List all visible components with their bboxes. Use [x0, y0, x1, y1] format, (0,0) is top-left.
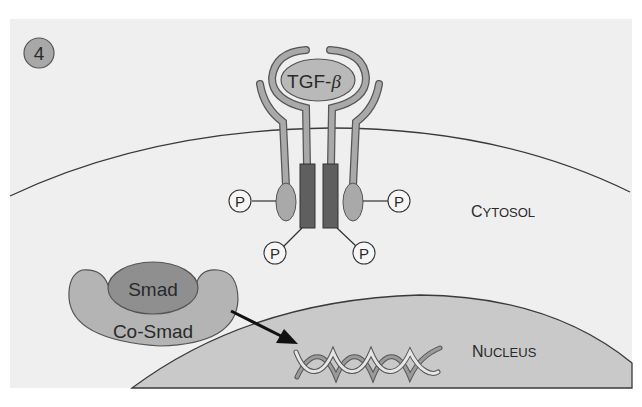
phosphate-bottom-right: P [353, 242, 375, 264]
receptor-type1-left-domain [276, 183, 296, 221]
svg-text:P: P [394, 193, 404, 210]
receptor-kinase-left [300, 164, 315, 228]
phosphate-right: P [388, 190, 410, 212]
svg-text:P: P [359, 245, 369, 262]
svg-text:P: P [270, 245, 280, 262]
tgf-beta-ligand: TGF-β [281, 59, 355, 101]
cytosol-label: CYTOSOL [471, 203, 535, 220]
phosphate-left: P [229, 190, 251, 212]
step-badge: 4 [24, 38, 54, 68]
svg-text:Smad: Smad [128, 279, 178, 300]
receptor-kinase-right [323, 164, 338, 228]
nucleus-label: NUCLEUS [472, 343, 537, 360]
receptor-type1-right-domain [343, 183, 363, 221]
tgf-beta-signaling-diagram: 4 TGF-β P [0, 0, 642, 407]
svg-text:P: P [235, 193, 245, 210]
svg-text:TGF-β: TGF-β [287, 71, 341, 92]
svg-text:4: 4 [34, 43, 45, 64]
phosphate-bottom-left: P [264, 242, 286, 264]
svg-text:Co-Smad: Co-Smad [113, 321, 193, 342]
